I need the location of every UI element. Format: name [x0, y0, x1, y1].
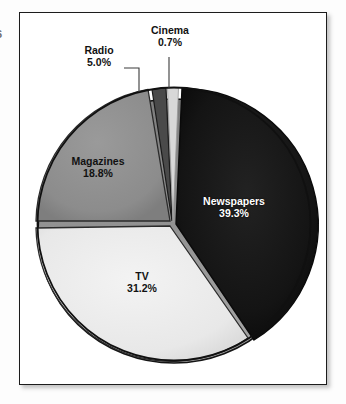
slice-label-radio-pct: 5.0% [72, 56, 126, 68]
slice-label-cinema: Cinema 0.7% [125, 24, 215, 48]
slice-label-cinema-pct: 0.7% [125, 36, 215, 48]
slice-label-radio: Radio 5.0% [72, 44, 126, 68]
slice-label-newspapers-name: Newspapers [203, 195, 265, 207]
slice-label-tv-pct: 31.2% [110, 282, 174, 294]
slice-label-magazines: Magazines 18.8% [53, 155, 143, 179]
slice-label-cinema-name: Cinema [151, 24, 189, 36]
slice-label-radio-name: Radio [84, 44, 113, 56]
leader-lines [124, 57, 169, 92]
leader-line-radio [124, 68, 139, 92]
slice-label-newspapers: Newspapers 39.3% [186, 195, 282, 219]
slice-label-tv: TV 31.2% [110, 270, 174, 294]
pie-chart [0, 0, 346, 404]
slice-label-newspapers-pct: 39.3% [186, 207, 282, 219]
slice-label-magazines-pct: 18.8% [53, 167, 143, 179]
slice-label-magazines-name: Magazines [71, 155, 124, 167]
slice-label-tv-name: TV [135, 270, 148, 282]
